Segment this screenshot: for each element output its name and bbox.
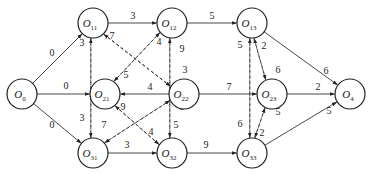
edge-weight-label: 3 [125, 139, 130, 150]
nodes-layer: O0O11O12O13O21O22O23O31O32O33O4 [7, 8, 365, 168]
edge-weight-label: 3 [183, 64, 188, 75]
node-o0: O0 [7, 79, 37, 109]
edge-weight-label: 3 [131, 10, 136, 21]
edge-weight-label: 7 [102, 119, 107, 130]
edge-weight-label: 7 [227, 81, 232, 92]
edge-weight-label: 5 [327, 105, 332, 116]
node-o22: O22 [169, 79, 199, 109]
edge-o13-to-o4 [264, 32, 337, 85]
edge-weight-label: 0 [64, 80, 69, 91]
edge-weight-label: 2 [260, 127, 265, 138]
node-o32: O32 [157, 138, 187, 168]
edge-o0-to-o11 [33, 34, 82, 83]
node-o21: O21 [90, 79, 120, 109]
node-o13: O13 [237, 8, 267, 38]
edge-weight-label: 3 [80, 37, 85, 48]
edge-o31-to-o22 [104, 101, 169, 143]
edge-weight-label: 5 [210, 10, 215, 21]
node-o11: O11 [78, 8, 108, 38]
edge-weight-label: 6 [324, 65, 329, 76]
edge-weight-label: 2 [262, 40, 267, 51]
edge-weight-label: 9 [180, 43, 185, 54]
edge-weight-label: 0 [50, 119, 55, 130]
edge-weight-label: 5 [124, 69, 129, 80]
node-o23: O23 [257, 79, 287, 109]
edge-weight-label: 3 [80, 112, 85, 123]
network-diagram: 000356472395334595739473562625 O0O11O12O… [0, 0, 374, 174]
edge-weight-label: 9 [121, 101, 126, 112]
edge-weight-label: 7 [110, 30, 115, 41]
edge-weight-label: 0 [50, 47, 55, 58]
edge-weight-label: 5 [238, 39, 243, 50]
node-o4: O4 [335, 79, 365, 109]
edge-o0-to-o31 [34, 104, 82, 144]
edge-weight-label: 4 [148, 81, 153, 92]
edge-weight-label: 6 [276, 64, 281, 75]
node-o31: O31 [78, 138, 108, 168]
edge-weight-label: 4 [157, 36, 162, 47]
node-o12: O12 [157, 8, 187, 38]
edge-weight-label: 4 [149, 126, 154, 137]
edge-weight-label: 5 [174, 119, 179, 130]
edge-weight-label: 6 [238, 118, 243, 129]
edge-weight-label: 2 [316, 81, 321, 92]
node-o33: O33 [237, 138, 267, 168]
edge-weight-label: 9 [204, 139, 209, 150]
